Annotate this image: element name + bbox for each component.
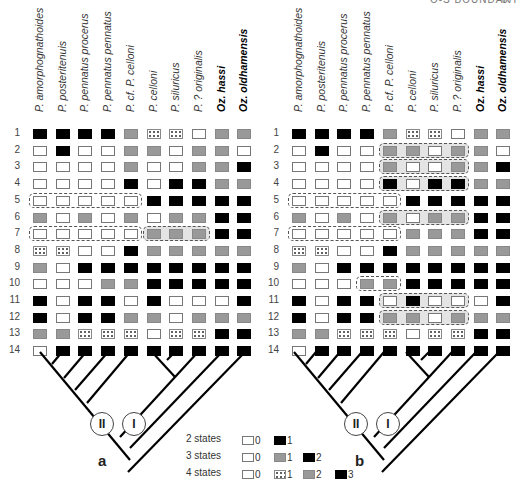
- legend-value: 0: [255, 469, 261, 480]
- legend-item: 1: [274, 468, 293, 480]
- legend-label: 3 states: [186, 450, 240, 461]
- legend-label: 4 states: [186, 467, 240, 478]
- node-label-II: II: [344, 412, 368, 436]
- legend-swatch: [274, 453, 286, 462]
- legend-swatch: [274, 470, 286, 479]
- legend-item: 1: [274, 451, 293, 463]
- legend-swatch: [242, 436, 254, 445]
- legend-value: 0: [255, 435, 261, 446]
- legend-item: 0: [242, 434, 261, 446]
- legend-value: 1: [287, 452, 293, 463]
- panel-b: P. amorphognathoidesP. posteritenuisP. p…: [259, 0, 518, 498]
- legend-item: 2: [303, 468, 322, 480]
- node-label-I: I: [376, 412, 400, 436]
- legend-item: 0: [242, 468, 261, 480]
- legend-value: 1: [287, 469, 293, 480]
- legend-swatch: [303, 453, 315, 462]
- panel-a: P. amorphognathoidesP. posteritenuisP. p…: [0, 0, 259, 498]
- panel-letter: b: [355, 452, 364, 469]
- legend-label: 2 states: [186, 433, 240, 444]
- legend-item: 1: [274, 434, 293, 446]
- legend-value: 3: [348, 469, 354, 480]
- legend-swatch: [274, 436, 286, 445]
- legend-item: 0: [242, 451, 261, 463]
- legend-value: 2: [316, 469, 322, 480]
- legend-value: 2: [316, 452, 322, 463]
- legend-value: 0: [255, 452, 261, 463]
- legend-swatch: [242, 470, 254, 479]
- legend-item: 3: [335, 468, 354, 480]
- legend-swatch: [335, 470, 347, 479]
- legend-item: 2: [303, 451, 322, 463]
- legend-value: 1: [287, 435, 293, 446]
- legend-swatch: [303, 470, 315, 479]
- legend-swatch: [242, 453, 254, 462]
- node-label-I: I: [122, 412, 146, 436]
- panel-letter: a: [98, 452, 106, 469]
- node-label-II: II: [90, 412, 114, 436]
